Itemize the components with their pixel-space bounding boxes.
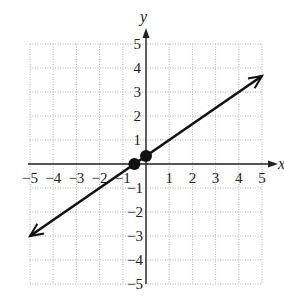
y-tick-label: 5 (134, 36, 142, 52)
coordinate-plane: −5−4−3−2−11234512345−1−2−3−4−5 y x (0, 0, 284, 304)
axes (28, 28, 278, 284)
x-tick-label: −5 (22, 170, 38, 186)
y-tick-label: −2 (127, 204, 143, 220)
y-axis-label: y (138, 8, 148, 26)
x-tick-label: 4 (235, 170, 243, 186)
x-tick-label: −4 (45, 170, 61, 186)
x-tick-label: 2 (189, 170, 197, 186)
x-tick-label: 5 (258, 170, 266, 186)
x-tick-label: 3 (212, 170, 220, 186)
y-tick-label: 4 (134, 60, 142, 76)
y-tick-label: 1 (134, 132, 142, 148)
y-tick-label: 3 (134, 84, 142, 100)
x-tick-label: 1 (165, 170, 173, 186)
y-tick-label: 2 (134, 108, 142, 124)
y-axis-arrow-icon (143, 28, 150, 38)
y-tick-label: −3 (127, 228, 143, 244)
y-tick-label: −5 (127, 276, 143, 292)
data-point (128, 158, 140, 170)
data-point (140, 150, 152, 162)
x-axis-arrow-icon (268, 161, 278, 168)
x-axis-label: x (277, 155, 284, 172)
x-tick-label: −3 (68, 170, 84, 186)
y-tick-label: −1 (127, 180, 143, 196)
y-tick-label: −4 (127, 252, 143, 268)
